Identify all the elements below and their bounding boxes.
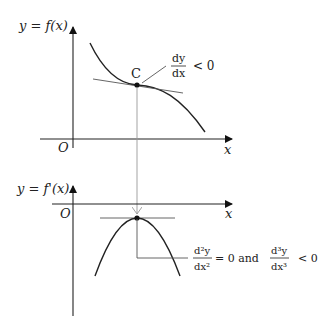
bottom-y-axis-label: y = f'(x) (16, 181, 69, 196)
top-y-axis-label: y = f(x) (18, 18, 68, 33)
dy-dx-annotation: dy dx < 0 (171, 52, 215, 80)
bottom-graph: y = f'(x) x O d²y dx² = 0 and d³y dx³ < … (16, 181, 318, 316)
equals-zero-and: = 0 and (215, 252, 259, 265)
dx-denominator: dx (172, 67, 186, 80)
diagram-canvas: y = f(x) x O C dy dx < 0 y = f'(x) x O (0, 0, 331, 333)
bottom-origin-label: O (60, 206, 71, 221)
annotation-leader-top (142, 66, 166, 83)
bottom-x-axis-label: x (225, 206, 233, 221)
derivative-curve (95, 218, 180, 276)
point-c-label: C (131, 66, 141, 81)
top-graph: y = f(x) x O C dy dx < 0 (18, 18, 232, 157)
less-than-zero: < 0 (298, 252, 318, 265)
dx3-denominator: dx³ (271, 261, 287, 272)
d2y-numerator: d²y (194, 245, 210, 256)
point-c (134, 82, 139, 87)
dy-numerator: dy (172, 52, 186, 65)
dy-dx-relation: < 0 (193, 59, 215, 73)
d3y-numerator: d³y (271, 245, 287, 256)
top-origin-label: O (58, 140, 69, 155)
second-third-derivative-annotation: d²y dx² = 0 and d³y dx³ < 0 (193, 245, 318, 272)
dx2-denominator: dx² (194, 261, 210, 272)
top-x-axis-label: x (224, 142, 232, 157)
